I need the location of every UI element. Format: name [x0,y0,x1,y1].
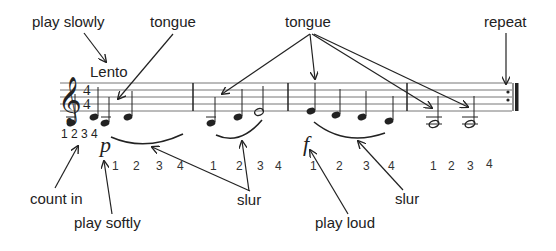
arrow-icon [242,141,249,191]
arrow-icon [222,34,310,94]
svg-text:2: 2 [133,159,140,173]
arrow-icon [314,34,468,107]
label-play-slowly: play slowly [32,13,105,30]
label-play-softly: play softly [74,214,141,231]
beat-counts: 1 2 3 4 1 2 3 4 1 2 3 4 1 2 3 4 [112,157,493,173]
label-tongue-1: tongue [150,13,196,30]
svg-text:2: 2 [236,159,243,173]
svg-text:1: 1 [112,159,119,173]
svg-text:4: 4 [275,159,282,173]
svg-text:3: 3 [363,159,370,173]
svg-text:4: 4 [388,159,395,173]
slur-measure-2 [216,120,262,138]
tempo-marking: Lento [90,63,128,80]
label-repeat: repeat [484,13,527,30]
label-count-in: count in [30,190,83,207]
svg-text:1: 1 [430,159,437,173]
measure-4-notes [426,96,478,129]
measure-2-notes [206,86,265,128]
label-slur-1: slur [237,191,261,208]
svg-text:1: 1 [210,159,217,173]
svg-text:2: 2 [336,159,343,173]
svg-text:4: 4 [486,157,493,171]
treble-clef-icon: 𝄞 [58,76,82,125]
label-tongue-2: tongue [285,13,331,30]
svg-text:3: 3 [467,159,474,173]
label-play-loud: play loud [315,214,375,231]
arrow-icon [84,33,106,62]
music-notation-diagram: 𝄞 4 4 Lento [0,0,556,251]
svg-text:2: 2 [448,159,455,173]
dynamic-piano: p [98,132,111,157]
time-signature-bottom: 4 [83,96,91,112]
slur-measure-1 [111,134,183,144]
svg-text:3: 3 [257,159,264,173]
arrow-icon [55,146,78,188]
slur-measure-3 [314,122,385,138]
count-in-numbers: 1 2 3 4 [61,127,98,141]
arrow-icon [310,34,315,79]
label-slur-2: slur [395,190,419,207]
svg-text:3: 3 [156,159,163,173]
arrow-icon [104,161,112,214]
